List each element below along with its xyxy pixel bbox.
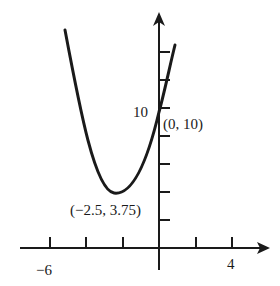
parabola-chart: −6 4 10 (0, 10) (−2.5, 3.75): [0, 0, 280, 286]
y-tick-label-10: 10: [133, 104, 148, 120]
x-tick-label-min: −6: [36, 262, 52, 278]
intercept-annotation: (0, 10): [163, 116, 203, 133]
vertex-annotation: (−2.5, 3.75): [70, 202, 141, 219]
x-ticks: [50, 237, 232, 248]
x-tick-label-max: 4: [227, 256, 235, 272]
